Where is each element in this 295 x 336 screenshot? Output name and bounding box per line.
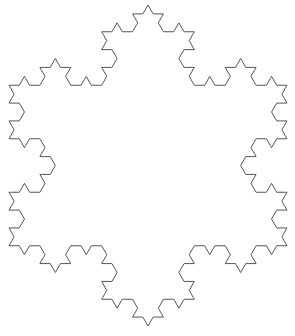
koch-snowflake-canvas bbox=[0, 0, 295, 336]
koch-snowflake-outline bbox=[9, 5, 287, 326]
